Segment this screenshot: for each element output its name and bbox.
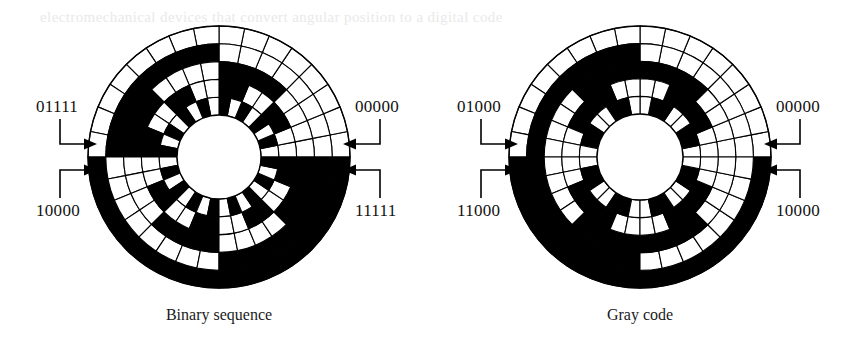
encoder-cell (614, 26, 640, 46)
gray-leader-bottom-right (777, 170, 800, 198)
binary-disc-caption: Binary sequence (166, 306, 272, 324)
gray-leader-bottom-left (481, 170, 505, 198)
encoder-cell (219, 268, 245, 288)
encoder-cell (313, 157, 333, 179)
encoder-cell (106, 135, 126, 157)
encoder-cell (717, 157, 736, 176)
encoder-cell (124, 138, 143, 157)
gray-leader-top-right (777, 119, 800, 144)
encoder-cell (219, 62, 238, 81)
encoder-cell (640, 26, 666, 46)
encoder-cell (193, 26, 219, 46)
binary-label-top-right: 00000 (355, 97, 399, 116)
bleed-through-text: electromechanical devices that convert a… (40, 9, 503, 25)
encoder-cell (734, 157, 753, 179)
gray-label-bottom-left: 11000 (457, 201, 500, 220)
encoder-cell (295, 157, 314, 176)
binary-label-top-left: 01111 (36, 97, 78, 116)
encoder-cell (640, 61, 659, 80)
encoder-cell (640, 268, 666, 288)
binary-leader-top-right (356, 119, 380, 144)
gray-code-disc (509, 26, 771, 288)
gray-label-top-right: 00000 (776, 97, 820, 116)
encoder-cell (219, 26, 245, 46)
encoder-cell (618, 251, 640, 270)
binary-leader-bottom-left (60, 170, 84, 198)
encoder-cell (200, 233, 219, 252)
encoder-cell (197, 251, 219, 271)
binary-leader-bottom-right (356, 170, 380, 198)
binary-sequence-disc (88, 26, 350, 288)
encoder-cell (527, 135, 546, 157)
binary-label-bottom-right: 11111 (355, 201, 396, 220)
figure-canvas: electromechanical devices that convert a… (0, 0, 850, 343)
encoder-cell (193, 268, 219, 288)
binary-label-bottom-left: 10000 (36, 201, 80, 220)
encoder-disc-figure: electromechanical devices that convert a… (0, 0, 850, 343)
encoder-cell (621, 234, 640, 253)
encoder-cell (640, 44, 662, 63)
gray-leader-top-left (481, 119, 505, 144)
gray-label-bottom-right: 10000 (776, 201, 820, 220)
encoder-cell (544, 138, 563, 157)
binary-leader-top-left (60, 119, 84, 144)
binary-disc-hub (177, 115, 261, 199)
gray-disc-hub (597, 114, 683, 200)
gray-disc-caption: Gray code (607, 306, 673, 324)
gray-label-top-left: 01000 (457, 97, 501, 116)
encoder-cell (219, 44, 241, 64)
encoder-cell (614, 268, 640, 288)
